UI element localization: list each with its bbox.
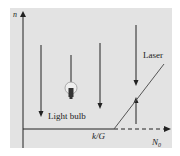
y-axis-label: n [13,10,17,19]
threshold-label: k/G [92,131,105,141]
light-bulb-icon [65,82,77,99]
down-arrow-icon [98,103,103,109]
down-arrow-icon [134,80,139,86]
laser-label: Laser [143,50,163,60]
y-axis [20,11,26,148]
laser-threshold-diagram: n k/G N0 Laser Light bulb [0,0,180,156]
down-arrow-icon [39,111,44,117]
x-axis-arrow-icon [164,126,171,132]
x-axis-label: N0 [151,137,161,148]
light-bulb-label: Light bulb [48,111,86,121]
y-axis-arrow-icon [20,11,26,17]
laser-line [114,64,164,129]
decay-arrows [39,25,139,117]
